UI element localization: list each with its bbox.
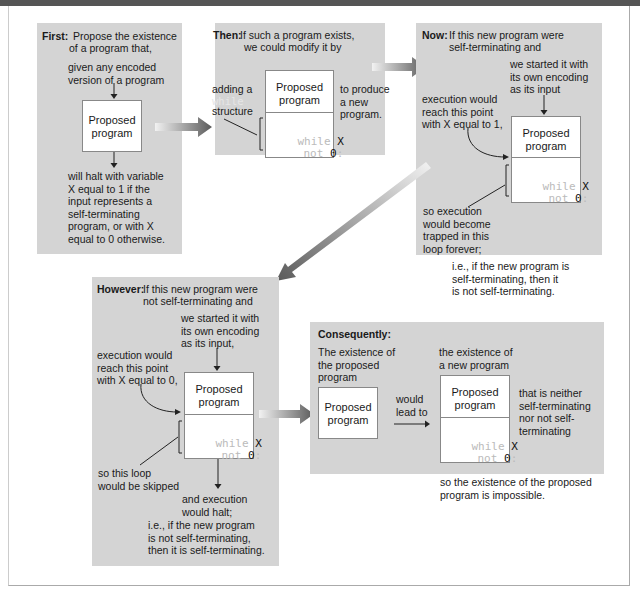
consequently-lead-note: would lead to: [396, 393, 428, 418]
however-conclusion: i.e., if the new program is not self-ter…: [148, 519, 265, 557]
box-label: Proposed program: [441, 386, 509, 412]
consequently-right-note: the existence of a new program: [439, 346, 513, 371]
then-program-box: Proposed program while X not 0:: [265, 70, 334, 158]
then-line1: If such a program exists,: [240, 29, 354, 42]
box-label: Proposed program: [512, 127, 580, 153]
however-reach-note: execution would reach this point with X …: [97, 349, 178, 387]
however-skipped-note: so this loop would be skipped: [98, 467, 179, 492]
now-line2: self-terminating and: [449, 41, 541, 54]
then-left-note-1: adding a: [212, 83, 252, 96]
consequently-final-note: so the existence of the proposed program…: [440, 476, 592, 501]
now-trapped-note: so execution would become trapped in thi…: [423, 205, 491, 255]
while-loop-code-2: not 0:: [522, 179, 588, 218]
however-program-box: Proposed program while X not 0:: [184, 372, 254, 459]
then-left-note-2: structure: [212, 105, 253, 118]
now-conclusion: i.e., if the new program is self-termina…: [452, 260, 569, 298]
box-label: Proposed program: [266, 81, 333, 107]
now-input-note: we started it with its own encoding as i…: [510, 58, 588, 96]
then-line2: we could modify it by: [244, 41, 341, 54]
now-program-box: Proposed program while X not 0:: [511, 116, 581, 203]
first-input-note: given any encoded version of a program: [68, 61, 164, 86]
however-halt-note: and execution would halt;: [182, 493, 247, 518]
first-line2: of a program that,: [69, 42, 152, 55]
now-heading: Now:: [422, 29, 448, 42]
however-heading: However:: [97, 283, 144, 296]
however-line2: not self-terminating and: [143, 295, 253, 308]
consequently-left-note: The existence of the proposed program: [318, 346, 395, 384]
now-line1: If this new program were: [449, 29, 564, 42]
consequently-heading: Consequently:: [318, 328, 391, 341]
while-loop-code-2: not 0:: [195, 436, 261, 475]
however-input-note: we started it with its own encoding as i…: [181, 312, 259, 350]
now-reach-note: execution would reach this point with X …: [422, 93, 503, 131]
box-label: Proposed program: [319, 401, 377, 427]
first-output-note: will halt with variable X equal to 1 if …: [68, 170, 165, 245]
box-label: Proposed program: [83, 114, 141, 140]
first-line1: Propose the existence: [73, 30, 177, 43]
first-heading: First:: [42, 30, 68, 43]
lead-to-arrow: [0, 0, 1, 1]
then-heading: Then:: [213, 29, 242, 42]
while-loop-code-2: not 0:: [451, 439, 517, 478]
while-loop-code-2: not 0:: [277, 134, 343, 173]
consequently-neither-note: that is neither self-terminating nor not…: [519, 387, 591, 437]
then-right-note: to produce a new program.: [340, 83, 390, 121]
consequently-proposed-box: Proposed program: [318, 387, 378, 439]
consequently-new-program-box: Proposed program while X not 0:: [440, 375, 510, 463]
first-proposed-program-box: Proposed program: [82, 100, 142, 152]
however-line1: If this new program were: [143, 283, 258, 296]
box-label: Proposed program: [185, 383, 253, 409]
